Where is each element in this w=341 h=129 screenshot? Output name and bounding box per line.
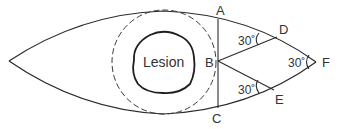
- point-label-C: C: [212, 111, 221, 126]
- angle-label-D: 30˚: [238, 34, 255, 48]
- angle-label-F: 30˚: [288, 56, 305, 70]
- angle-label-E: 30˚: [238, 83, 255, 97]
- lesion-label: Lesion: [143, 54, 184, 70]
- point-label-A: A: [216, 3, 225, 18]
- point-label-F: F: [322, 55, 330, 70]
- angle-arc-D: [256, 33, 259, 45]
- excision-diagram: Lesion 30˚ 30˚ 30˚ A B C D E F: [0, 0, 341, 129]
- point-label-E: E: [275, 92, 284, 107]
- point-label-D: D: [279, 22, 288, 37]
- point-label-B: B: [205, 55, 214, 70]
